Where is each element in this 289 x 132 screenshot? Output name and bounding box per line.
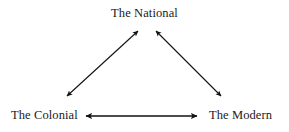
- triangle-diagram: The National The Colonial The Modern: [0, 0, 289, 132]
- node-label-colonial: The Colonial: [11, 108, 78, 122]
- edge-colonial-national: [67, 31, 138, 96]
- edge-national-modern: [156, 31, 221, 96]
- node-label-modern: The Modern: [209, 108, 272, 122]
- node-label-national: The National: [0, 6, 289, 20]
